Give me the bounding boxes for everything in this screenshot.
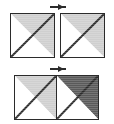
diagonal-split-bottom-left — [15, 76, 56, 119]
arrow-head — [58, 66, 64, 72]
top-row — [0, 0, 114, 62]
diagonal-split-top-left — [11, 14, 54, 57]
diagram-figure — [0, 0, 114, 124]
right-arrow-marker — [50, 4, 66, 9]
diagonal-split-top-right — [61, 14, 104, 57]
square-top-right — [60, 13, 105, 58]
square-top-left — [10, 13, 55, 58]
diagonal-split-bottom-right — [57, 76, 98, 119]
square-bottom-right — [56, 75, 99, 120]
arrow-shaft — [50, 6, 66, 8]
right-arrow-marker — [50, 66, 66, 71]
square-bottom-left — [14, 75, 57, 120]
arrow-head — [58, 4, 64, 10]
bottom-row — [0, 62, 114, 124]
arrow-shaft — [50, 68, 66, 70]
